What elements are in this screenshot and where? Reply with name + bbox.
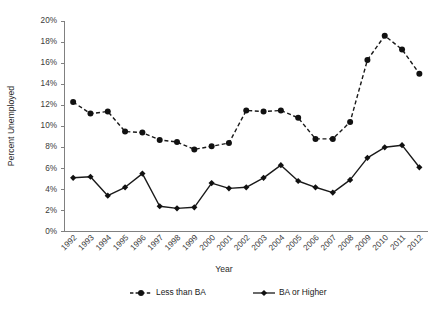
y-tick-label: 16% xyxy=(41,58,57,67)
x-tick-label: 2008 xyxy=(336,233,356,253)
y-tick-label: 4% xyxy=(45,185,57,194)
x-tick-label: 1998 xyxy=(163,233,183,253)
x-tick-label: 2003 xyxy=(250,233,270,253)
y-tick-label: 12% xyxy=(41,100,57,109)
data-point xyxy=(70,99,76,105)
y-tick-label: 6% xyxy=(45,164,57,173)
data-point xyxy=(382,33,388,39)
data-point xyxy=(243,107,249,113)
data-point xyxy=(157,137,163,143)
x-tick-label: 2009 xyxy=(354,233,374,253)
data-point xyxy=(122,129,128,135)
y-tick-label: 20% xyxy=(41,16,57,25)
legend-label: BA or Higher xyxy=(279,287,327,297)
x-axis-tick-labels: 1992199319941995199619971998199920002001… xyxy=(59,233,425,253)
series-1 xyxy=(70,33,422,153)
series-2 xyxy=(70,142,422,211)
y-axis-tick-labels: 0%2%4%6%8%10%12%14%16%18%20% xyxy=(41,16,57,236)
y-axis-title: Percent Unemployed xyxy=(6,86,16,166)
y-tick-label: 18% xyxy=(41,37,57,46)
data-point xyxy=(226,140,232,146)
x-tick-label: 2007 xyxy=(319,233,339,253)
x-axis-title: Year xyxy=(215,264,233,274)
legend-label: Less than BA xyxy=(156,287,206,297)
y-tick-label: 2% xyxy=(45,206,57,215)
data-point xyxy=(243,184,249,190)
x-tick-label: 1994 xyxy=(94,233,114,253)
y-tick-label: 14% xyxy=(41,79,57,88)
x-tick-label: 2006 xyxy=(302,233,322,253)
x-tick-label: 2012 xyxy=(406,233,426,253)
legend-swatch-marker xyxy=(261,290,267,296)
data-point xyxy=(70,175,76,181)
data-point xyxy=(174,139,180,145)
x-tick-label: 2004 xyxy=(267,233,287,253)
legend-item-1[interactable]: Less than BA xyxy=(130,287,206,297)
data-point xyxy=(261,109,267,115)
data-point xyxy=(312,136,318,142)
data-point xyxy=(139,130,145,136)
data-point xyxy=(191,146,197,152)
data-point xyxy=(174,205,180,211)
data-point xyxy=(399,46,405,52)
chart-legend: Less than BABA or Higher xyxy=(130,287,327,297)
x-tick-label: 1993 xyxy=(77,233,97,253)
x-tick-label: 1997 xyxy=(146,233,166,253)
y-tick-label: 0% xyxy=(45,227,57,236)
x-tick-label: 1992 xyxy=(59,233,79,253)
data-point xyxy=(87,111,93,117)
x-tick-label: 1995 xyxy=(111,233,131,253)
y-tick-label: 8% xyxy=(45,142,57,151)
series-line xyxy=(73,145,419,208)
series-layer xyxy=(70,33,422,212)
x-tick-label: 1999 xyxy=(180,233,200,253)
legend-swatch-marker xyxy=(138,290,144,296)
data-point xyxy=(226,185,232,191)
x-tick-label: 2005 xyxy=(284,233,304,253)
x-tick-label: 2011 xyxy=(389,233,408,252)
data-point xyxy=(312,184,318,190)
data-point xyxy=(209,143,215,149)
x-tick-label: 1996 xyxy=(129,233,149,253)
data-point xyxy=(295,115,301,121)
data-point xyxy=(330,136,336,142)
data-point xyxy=(105,109,111,115)
data-point xyxy=(382,144,388,150)
x-tick-label: 2000 xyxy=(198,233,218,253)
legend-item-2[interactable]: BA or Higher xyxy=(253,287,327,297)
unemployment-line-chart: 0%2%4%6%8%10%12%14%16%18%20% 19921993199… xyxy=(0,0,440,309)
data-point xyxy=(416,71,422,77)
y-tick-label: 10% xyxy=(41,121,57,130)
chart-figure: 0%2%4%6%8%10%12%14%16%18%20% 19921993199… xyxy=(0,0,440,309)
x-tick-label: 2001 xyxy=(215,233,235,253)
x-tick-label: 2010 xyxy=(371,233,391,253)
x-tick-label: 2002 xyxy=(232,233,252,253)
data-point xyxy=(157,203,163,209)
y-axis-ticks xyxy=(61,21,65,232)
data-point xyxy=(347,119,353,125)
data-point xyxy=(364,57,370,63)
data-point xyxy=(278,107,284,113)
